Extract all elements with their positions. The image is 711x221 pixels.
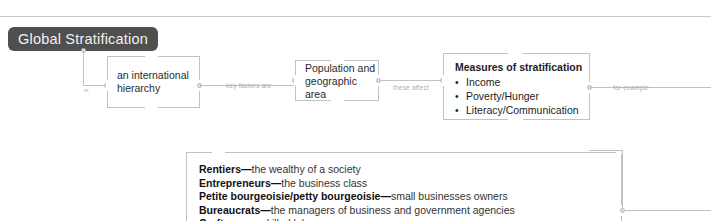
- root-node-label: Global Stratification: [18, 31, 148, 47]
- measures-bullet-item: Poverty/Hunger: [466, 89, 579, 103]
- border-gap-measures-top: [508, 52, 523, 55]
- edge-label-is: is: [84, 87, 89, 93]
- connector-line-bottom-elbow-horizontal: [589, 150, 623, 151]
- class-category-desc: skilled laborers: [261, 217, 331, 221]
- class-category-term: Entrepreneurs: [199, 177, 271, 189]
- border-gap-measures-bottom: [508, 118, 523, 121]
- edge-label-key-factors-are: key factors are: [226, 82, 272, 89]
- border-gap-hierarchy-top: [145, 55, 158, 58]
- class-category-dash: —: [380, 190, 391, 202]
- measures-bullet-item: Literacy/Communication: [466, 103, 579, 117]
- border-gap-population-left: [294, 75, 297, 86]
- class-category-desc: small businesses owners: [391, 190, 508, 202]
- class-category-desc: the business class: [281, 177, 367, 189]
- class-category-term: Petite bourgeoisie/petty bourgeoisie: [199, 190, 380, 202]
- class-category-desc: the managers of business and government …: [271, 204, 515, 216]
- class-category-dash: —: [241, 163, 252, 175]
- border-gap-measures-left: [442, 75, 445, 86]
- class-category-dash: —: [271, 177, 282, 189]
- top-divider-rule: [0, 16, 711, 17]
- border-gap-population-bottom: [331, 99, 344, 102]
- node-class-categories-list[interactable]: Rentiers—the wealthy of a society Entrep…: [186, 152, 622, 221]
- node-international-hierarchy-label: an international hierarchy: [117, 69, 189, 95]
- class-category-desc: the wealthy of a society: [252, 163, 361, 175]
- node-measures-title: Measures of stratification: [455, 61, 582, 73]
- connector-line-bottom-elbow-vertical: [622, 150, 623, 210]
- border-gap-list-top: [212, 151, 225, 154]
- class-category-dash: —: [260, 204, 271, 216]
- measures-bullet-item: Income: [466, 75, 579, 89]
- diagram-canvas: Global Stratification is an internationa…: [0, 0, 711, 221]
- border-gap-hierarchy-bottom: [145, 106, 158, 109]
- node-measures-of-stratification[interactable]: Measures of stratification Income Povert…: [443, 53, 590, 120]
- connector-line-list-to-right: [625, 210, 711, 211]
- class-category-term: Craftsmen: [199, 217, 251, 221]
- class-category-line: Petite bourgeoisie/petty bourgeoisie—sma…: [199, 190, 515, 204]
- class-category-term: Bureaucrats: [199, 204, 260, 216]
- class-categories-lines: Rentiers—the wealthy of a society Entrep…: [199, 163, 515, 221]
- class-category-term: Rentiers: [199, 163, 241, 175]
- measures-bullet-list: Income Poverty/Hunger Literacy/Communica…: [455, 75, 579, 117]
- node-population-geographic-area-label: Population and geographic area: [305, 61, 378, 100]
- connector-line-population-to-measures: [379, 80, 443, 81]
- edge-label-for-example: for example: [613, 84, 649, 91]
- connector-line-measures-to-right: [590, 87, 711, 88]
- class-category-line: Rentiers—the wealthy of a society: [199, 163, 515, 177]
- edge-label-these-affect: these affect: [393, 84, 429, 91]
- connector-line-root-down: [83, 51, 84, 85]
- class-category-line: Craftsmen—skilled laborers: [199, 217, 515, 221]
- border-gap-hierarchy-left: [106, 80, 109, 91]
- class-category-line: Entrepreneurs—the business class: [199, 177, 515, 191]
- node-population-geographic-area[interactable]: Population and geographic area: [295, 60, 379, 101]
- node-international-hierarchy[interactable]: an international hierarchy: [107, 56, 200, 108]
- class-category-line: Bureaucrats—the managers of business and…: [199, 204, 515, 218]
- border-gap-population-top: [331, 59, 344, 62]
- class-category-dash: —: [251, 217, 262, 221]
